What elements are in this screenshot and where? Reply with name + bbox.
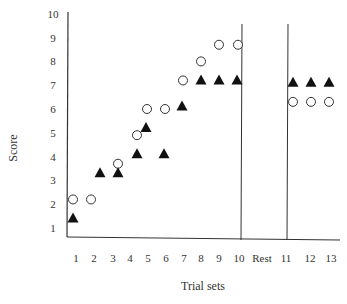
x-tick-label: 10 bbox=[234, 252, 246, 264]
y-tick-label: 1 bbox=[50, 222, 56, 234]
data-point-triangle bbox=[177, 101, 188, 111]
data-point-triangle bbox=[214, 74, 225, 84]
data-point-circle bbox=[143, 105, 152, 114]
x-tick-label: 8 bbox=[198, 252, 204, 264]
data-point-triangle bbox=[132, 148, 143, 158]
x-tick-label: 12 bbox=[305, 252, 316, 264]
y-tick-label: 4 bbox=[50, 151, 56, 163]
x-tick-label: 1 bbox=[73, 252, 79, 264]
data-point-circle bbox=[69, 195, 78, 204]
y-tick-label: 9 bbox=[50, 32, 56, 44]
data-point-triangle bbox=[95, 167, 106, 177]
x-tick-label: Rest bbox=[252, 252, 272, 264]
x-tick-label: 3 bbox=[110, 252, 116, 264]
series-filled-triangles bbox=[68, 74, 335, 222]
divider-rest-end bbox=[287, 24, 288, 240]
x-tick-labels: 12345678910Rest111213 bbox=[73, 252, 337, 264]
x-axis bbox=[67, 237, 340, 240]
divider-rest-start bbox=[241, 24, 242, 240]
x-axis-title: Trial sets bbox=[181, 279, 225, 293]
x-tick-label: 6 bbox=[163, 252, 169, 264]
y-tick-label: 3 bbox=[50, 174, 56, 186]
data-point-circle bbox=[307, 97, 316, 106]
data-point-triangle bbox=[68, 212, 79, 222]
y-tick-label: 5 bbox=[50, 127, 56, 139]
y-axis bbox=[67, 12, 68, 237]
data-point-circle bbox=[289, 97, 298, 106]
data-point-circle bbox=[215, 40, 224, 49]
data-point-triangle bbox=[288, 77, 299, 87]
y-tick-labels: 12345678910 bbox=[48, 8, 60, 234]
axes bbox=[67, 12, 340, 240]
y-tick-label: 8 bbox=[50, 55, 56, 67]
y-tick-label: 7 bbox=[50, 79, 56, 91]
data-point-triangle bbox=[306, 77, 317, 87]
x-tick-label: 11 bbox=[281, 252, 292, 264]
x-tick-label: 2 bbox=[91, 252, 97, 264]
x-tick-label: 4 bbox=[127, 252, 133, 264]
data-point-circle bbox=[87, 195, 96, 204]
y-tick-label: 10 bbox=[48, 8, 60, 20]
data-point-circle bbox=[133, 131, 142, 140]
x-tick-label: 13 bbox=[326, 252, 338, 264]
data-point-circle bbox=[325, 97, 334, 106]
x-tick-label: 9 bbox=[216, 252, 222, 264]
y-axis-title: Score bbox=[6, 134, 20, 161]
x-tick-label: 7 bbox=[181, 252, 187, 264]
y-tick-label: 6 bbox=[50, 103, 56, 115]
data-point-triangle bbox=[113, 167, 124, 177]
data-point-circle bbox=[114, 159, 123, 168]
y-tick-label: 2 bbox=[50, 198, 56, 210]
x-tick-label: 5 bbox=[145, 252, 151, 264]
data-point-circle bbox=[234, 40, 243, 49]
data-point-triangle bbox=[141, 122, 152, 132]
data-point-circle bbox=[161, 105, 170, 114]
data-point-triangle bbox=[196, 74, 207, 84]
data-point-circle bbox=[197, 57, 206, 66]
data-point-triangle bbox=[324, 77, 335, 87]
data-point-circle bbox=[179, 76, 188, 85]
data-point-triangle bbox=[159, 148, 170, 158]
data-point-triangle bbox=[232, 74, 243, 84]
series-open-circles bbox=[69, 40, 334, 204]
score-chart: 12345678910 12345678910Rest111213 Score … bbox=[0, 0, 347, 304]
